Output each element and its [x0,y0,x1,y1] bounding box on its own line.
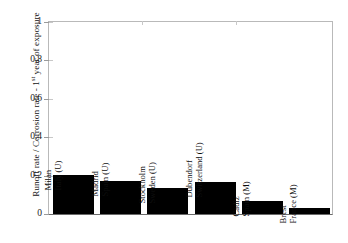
y-axis-tick-label: 0.4 [30,132,42,142]
y-axis-title-superscript: st [29,77,36,81]
x-axis-top-tick [142,21,143,25]
y-axis-tick-inner [49,137,53,138]
bar-category-label: MadridSpain (U) [89,163,109,197]
y-axis-tick-label: 1 [37,17,42,27]
bar-category-label: StockholmSweden (U) [136,162,156,203]
bar-label-country: Italy (U) [52,161,62,191]
y-axis-tick-label: 0 [37,209,42,219]
y-axis-tick-inner [49,22,53,23]
bar-label-city: Stockholm [136,162,146,203]
bar-label-city: Dubendorf [184,143,194,198]
y-axis-tick-label: 0.2 [30,171,42,181]
y-axis-tick-inner [49,99,53,100]
bar-label-country: Sweden (U) [147,162,157,203]
y-axis-tick [44,214,49,215]
bar-label-city: Brest [278,185,288,224]
bar-chart-figure: Runoff rate / Corrosion rate - 1st year … [0,0,348,243]
bar-category-label: CadizSpain (M) [231,181,251,216]
bar-category-label: MilanItaly (U) [42,161,62,191]
bar-label-country: Switzerland (U) [194,143,204,198]
bar-label-city: Milan [42,161,52,191]
bar-label-city: Madrid [89,163,99,197]
bar-label-country: Spain (U) [99,163,109,197]
bar-label-city: Cadiz [231,181,241,216]
bar-category-label: BrestFrance (M) [278,185,298,224]
bar-label-country: France (M) [288,185,298,224]
bar-category-label: DubendorfSwitzerland (U) [184,143,204,198]
y-axis-tick-label: 0.6 [30,94,42,104]
x-axis-top-tick [236,21,237,25]
bar-label-country: Spain (M) [241,181,251,216]
y-axis-tick-label: 0.8 [30,56,42,66]
y-axis-tick-inner [49,60,53,61]
